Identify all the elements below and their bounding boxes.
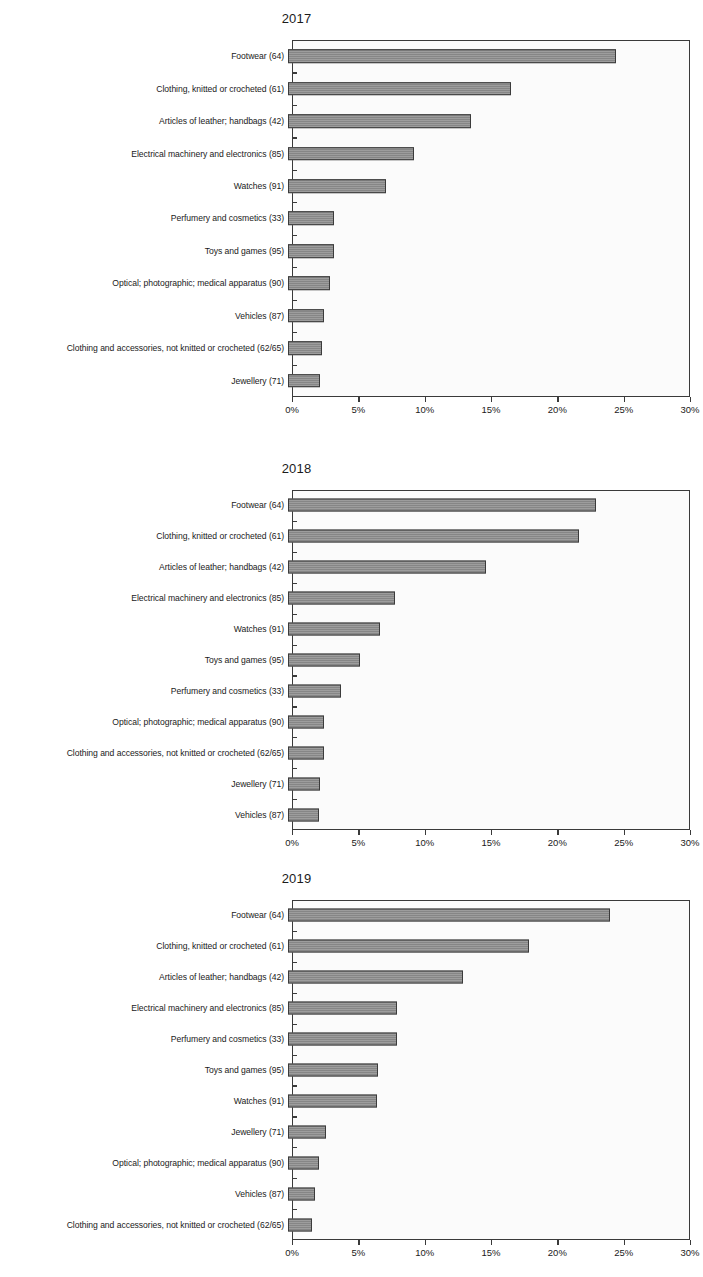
x-axis-tick (358, 830, 359, 835)
bar-track (288, 645, 703, 676)
chart-row: Articles of leather; handbags (42) (0, 552, 703, 583)
chart-row: Footwear (64) (0, 490, 703, 521)
category-label: Vehicles (87) (0, 810, 288, 820)
category-label: Footwear (64) (0, 500, 288, 510)
bar-track (288, 300, 703, 332)
bar-track (288, 235, 703, 267)
chart-row: Footwear (64) (0, 900, 703, 931)
plot-rows: Footwear (64)Clothing, knitted or croche… (0, 900, 703, 1240)
chart-row: Electrical machinery and electronics (85… (0, 137, 703, 169)
x-axis-tick (292, 1240, 293, 1245)
chart-row: Vehicles (87) (0, 799, 703, 830)
bar-track (288, 993, 703, 1024)
bar-track (288, 170, 703, 202)
plot-rows: Footwear (64)Clothing, knitted or croche… (0, 490, 703, 830)
category-label: Clothing and accessories, not knitted or… (0, 343, 288, 353)
category-label: Perfumery and cosmetics (33) (0, 213, 288, 223)
category-label: Clothing, knitted or crocheted (61) (0, 84, 288, 94)
chart-title: 2019 (0, 870, 703, 888)
bar (288, 1218, 312, 1231)
bar (288, 244, 334, 258)
chart-row: Watches (91) (0, 170, 703, 202)
x-axis: 0%5%10%15%20%25%30% (0, 830, 703, 852)
chart-row: Optical; photographic; medical apparatus… (0, 706, 703, 737)
x-axis-tick (491, 1240, 492, 1245)
chart-row: Optical; photographic; medical apparatus… (0, 1147, 703, 1178)
bar (288, 499, 596, 512)
chart-row: Toys and games (95) (0, 235, 703, 267)
y-axis-tick (292, 170, 297, 171)
y-axis-tick (292, 1024, 297, 1025)
category-label: Jewellery (71) (0, 376, 288, 386)
bar-track (288, 962, 703, 993)
x-axis-tick (624, 830, 625, 835)
x-axis-tick (624, 397, 625, 402)
bar-track (288, 552, 703, 583)
category-label: Watches (91) (0, 1096, 288, 1106)
bar-track (288, 583, 703, 614)
bar-track (288, 202, 703, 234)
category-label: Electrical machinery and electronics (85… (0, 593, 288, 603)
x-axis-tick (624, 1240, 625, 1245)
y-axis-tick (292, 105, 297, 106)
bar (288, 777, 320, 790)
y-axis-tick (292, 1085, 297, 1086)
bar (288, 1033, 397, 1046)
chart-row: Clothing and accessories, not knitted or… (0, 1209, 703, 1240)
y-axis-tick (292, 552, 297, 553)
x-axis-tick (425, 397, 426, 402)
y-axis-tick (292, 614, 297, 615)
category-label: Clothing, knitted or crocheted (61) (0, 941, 288, 951)
y-axis-tick (292, 931, 297, 932)
bar-track (288, 675, 703, 706)
x-axis-tick (292, 830, 293, 835)
x-axis-tick-label: 0% (285, 837, 299, 848)
bar (288, 277, 330, 291)
x-axis-tick (557, 1240, 558, 1245)
bar (288, 1094, 377, 1107)
y-axis-tick (292, 1055, 297, 1056)
x-axis-tick-label: 20% (548, 404, 567, 415)
y-axis-tick (292, 675, 297, 676)
category-label: Clothing, knitted or crocheted (61) (0, 531, 288, 541)
bar (288, 147, 414, 161)
y-axis-tick (292, 332, 297, 333)
y-axis-tick (292, 300, 297, 301)
x-axis-tick (690, 830, 691, 835)
x-axis-tick (425, 1240, 426, 1245)
x-axis-tick (557, 397, 558, 402)
bar (288, 82, 511, 96)
chart-row: Perfumery and cosmetics (33) (0, 675, 703, 706)
chart-row: Watches (91) (0, 1085, 703, 1116)
y-axis-tick (292, 365, 297, 366)
category-label: Perfumery and cosmetics (33) (0, 1034, 288, 1044)
bar-track (288, 267, 703, 299)
bar (288, 1064, 378, 1077)
x-axis-tick (292, 397, 293, 402)
bar (288, 971, 463, 984)
bar (288, 808, 319, 821)
category-label: Watches (91) (0, 624, 288, 634)
chart-row: Articles of leather; handbags (42) (0, 105, 703, 137)
x-axis-tick-label: 15% (481, 1247, 500, 1258)
y-axis-tick (292, 1147, 297, 1148)
bar (288, 1156, 319, 1169)
bar (288, 1002, 397, 1015)
bar (288, 909, 610, 922)
bar (288, 561, 486, 574)
category-label: Vehicles (87) (0, 1189, 288, 1199)
chart-row: Footwear (64) (0, 40, 703, 72)
y-axis-tick (292, 235, 297, 236)
chart-row: Optical; photographic; medical apparatus… (0, 267, 703, 299)
bar-track (288, 931, 703, 962)
category-label: Clothing and accessories, not knitted or… (0, 1220, 288, 1230)
chart-row: Clothing, knitted or crocheted (61) (0, 931, 703, 962)
bar-track (288, 490, 703, 521)
category-label: Watches (91) (0, 181, 288, 191)
x-axis-tick (557, 830, 558, 835)
bar-track (288, 1209, 703, 1240)
category-label: Articles of leather; handbags (42) (0, 116, 288, 126)
bar-track (288, 1055, 703, 1086)
x-axis-tick-label: 25% (614, 837, 633, 848)
bar-track (288, 1178, 703, 1209)
